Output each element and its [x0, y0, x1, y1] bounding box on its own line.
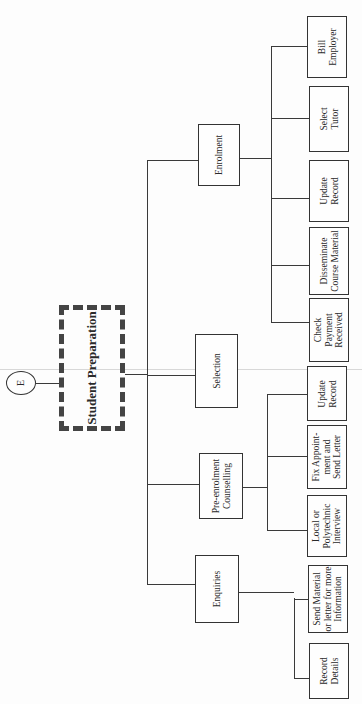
enquiries-child-connector	[294, 678, 309, 679]
root-label: Student Preparation	[85, 311, 99, 425]
enrolment-child-connector	[271, 198, 309, 199]
task-bill-employer: Bill Employer	[307, 16, 347, 78]
level1-spine	[147, 160, 148, 584]
enquiries-spine	[294, 599, 295, 679]
task-label: Check Payment Received	[313, 312, 345, 347]
counselling-box: Pre-enrolment Counselling	[199, 453, 243, 519]
task-disseminate-course-material: Disseminate Course Material	[309, 227, 349, 295]
task-update-record-counselling: Update Record	[307, 366, 347, 421]
counselling-label: Pre-enrolment Counselling	[211, 459, 232, 513]
task-select-tutor: Select Tutor	[309, 86, 349, 152]
task-label: Update Record	[319, 177, 340, 204]
task-label: Fix Appoint- ment and Send Letter	[311, 433, 343, 482]
selection-connector	[147, 375, 195, 376]
root-box-student-preparation: Student Preparation	[59, 305, 125, 431]
task-update-record-enrolment: Update Record	[309, 160, 349, 222]
selection-box: Selection	[195, 334, 238, 408]
enquiries-label: Enquiries	[212, 571, 223, 607]
counselling-spine	[267, 394, 268, 530]
enrolment-out	[240, 158, 271, 159]
connector-e: E	[6, 371, 36, 395]
connector-line	[36, 383, 60, 384]
counselling-child-connector	[267, 394, 307, 395]
task-check-payment-received: Check Payment Received	[309, 298, 349, 362]
task-label: Select Tutor	[319, 107, 340, 130]
enquiries-out	[239, 592, 294, 593]
task-local-polytechnic-interview: Local or Polytechnic Interview	[307, 495, 347, 557]
enrolment-child-connector	[271, 46, 308, 47]
task-record-details: Record Details	[309, 643, 349, 699]
task-label: Local or Polytechnic Interview	[311, 504, 343, 549]
enquiries-box: Enquiries	[195, 555, 239, 623]
counselling-connector	[147, 484, 199, 485]
enrolment-child-connector	[271, 265, 309, 266]
task-label: Disseminate Course Material	[319, 230, 340, 291]
enquiries-child-connector	[294, 599, 308, 600]
task-label: Record Details	[319, 657, 340, 684]
enrolment-spine	[271, 46, 272, 323]
enrolment-label: Enrolment	[214, 135, 225, 175]
enrolment-box: Enrolment	[198, 124, 240, 186]
selection-label: Selection	[211, 353, 222, 388]
counselling-child-connector	[267, 530, 307, 531]
task-label: Bill Employer	[317, 28, 338, 65]
enrolment-child-connector	[271, 118, 309, 119]
root-connector	[125, 374, 147, 375]
enquiries-connector	[147, 584, 195, 585]
task-label: Update Record	[317, 380, 338, 407]
connector-label: E	[16, 380, 27, 386]
counselling-child-connector	[267, 456, 307, 457]
counselling-out	[243, 487, 267, 488]
task-fix-appointment: Fix Appoint- ment and Send Letter	[307, 425, 347, 489]
enrolment-child-connector	[271, 322, 309, 323]
task-send-material: Send Material or letter for more Informa…	[308, 565, 348, 633]
task-label: Send Material or letter for more Informa…	[312, 566, 344, 631]
enrolment-connector	[147, 160, 198, 161]
